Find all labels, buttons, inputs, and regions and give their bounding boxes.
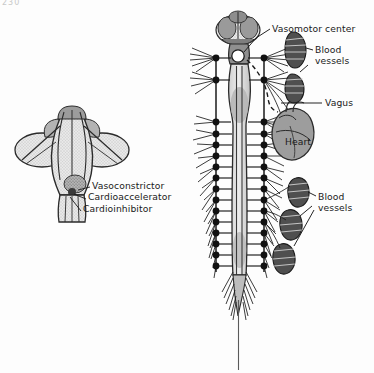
blood-vessel-upper-2 bbox=[285, 74, 304, 103]
label-cardioaccelerator: Cardioaccelerator bbox=[88, 191, 171, 202]
leader-blood-vessels-upper bbox=[306, 48, 313, 50]
label-cardioinhibitor: Cardioinhibitor bbox=[83, 203, 152, 214]
blood-vessel-lower-1 bbox=[288, 178, 310, 207]
label-vagus: Vagus bbox=[325, 97, 353, 108]
vasomotor-center-marker bbox=[232, 50, 244, 62]
blood-vessel-lower-3 bbox=[273, 244, 296, 274]
cervical-enlargement bbox=[231, 87, 249, 123]
label-heart: Heart bbox=[285, 136, 311, 147]
label-blood-vessels-lower: Blood vessels bbox=[318, 192, 364, 213]
leader-blood-vessels-upper-2 bbox=[300, 65, 308, 72]
figure-page: 230 bbox=[0, 0, 374, 373]
label-vasoconstrictor: Vasoconstrictor bbox=[92, 180, 164, 191]
lumbar-enlargement bbox=[233, 232, 247, 268]
ans-figure bbox=[190, 11, 322, 370]
label-blood-vessels-upper: Blood vessels bbox=[315, 45, 361, 66]
leader-blood-vessels-lower-2 bbox=[300, 206, 312, 216]
blood-vessel-upper-1 bbox=[285, 32, 306, 68]
label-vasomotor-center: Vasomotor center bbox=[272, 23, 355, 34]
peripheral-nerves-left bbox=[190, 48, 216, 278]
